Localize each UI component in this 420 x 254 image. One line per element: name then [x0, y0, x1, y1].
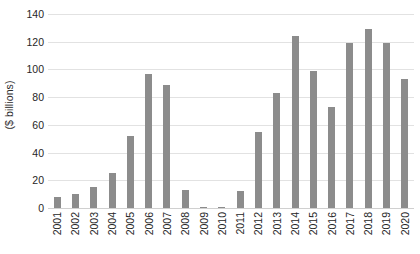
bar: [218, 207, 225, 208]
x-tick-label: 2015: [307, 212, 319, 235]
x-tick-label: 2016: [326, 212, 338, 235]
bar-slot: [85, 14, 103, 208]
bar-slot: [304, 14, 322, 208]
x-slot: 2011: [231, 210, 249, 254]
x-tick-label: 2005: [124, 212, 136, 235]
x-tick-label: 2006: [143, 212, 155, 235]
x-slot: 2009: [194, 210, 212, 254]
x-tick-label: 2009: [198, 212, 210, 235]
x-tick-label: 2019: [380, 212, 392, 235]
bar: [109, 173, 116, 208]
x-tick-label: 2014: [289, 212, 301, 235]
bar-chart: ($ billions) 020406080100120140 20012002…: [0, 0, 420, 254]
bar-slot: [194, 14, 212, 208]
x-tick-label: 2004: [106, 212, 118, 235]
y-axis-title-text: ($ billions): [3, 80, 15, 129]
x-slot: 2008: [176, 210, 194, 254]
bar: [346, 43, 353, 208]
gridline: [48, 208, 414, 209]
x-slot: 2005: [121, 210, 139, 254]
y-axis-title: ($ billions): [0, 0, 18, 210]
x-tick-label: 2013: [271, 212, 283, 235]
x-tick-label: 2020: [399, 212, 411, 235]
y-tick-label: 100: [26, 63, 44, 75]
bar-slot: [268, 14, 286, 208]
x-axis-tick-labels: 2001200220032004200520062007200820092010…: [48, 210, 414, 254]
bar-slot: [249, 14, 267, 208]
bar: [383, 43, 390, 208]
bar-slot: [158, 14, 176, 208]
x-slot: 2013: [268, 210, 286, 254]
bar: [292, 36, 299, 208]
y-tick-label: 120: [26, 36, 44, 48]
x-slot: 2020: [396, 210, 414, 254]
bar: [127, 136, 134, 208]
x-slot: 2012: [249, 210, 267, 254]
x-tick-label: 2011: [234, 212, 246, 235]
bar-slot: [139, 14, 157, 208]
x-slot: 2002: [66, 210, 84, 254]
y-tick-label: 0: [38, 202, 44, 214]
x-slot: 2004: [103, 210, 121, 254]
bar-slot: [66, 14, 84, 208]
x-tick-label: 2012: [252, 212, 264, 235]
bar: [90, 187, 97, 208]
bar: [163, 85, 170, 208]
plot-area: [48, 14, 414, 208]
bar: [365, 29, 372, 208]
bar-slot: [322, 14, 340, 208]
x-tick-label: 2018: [362, 212, 374, 235]
bar-slot: [121, 14, 139, 208]
x-slot: 2007: [158, 210, 176, 254]
bar: [273, 93, 280, 208]
x-tick-label: 2001: [51, 212, 63, 235]
y-tick-label: 20: [32, 174, 44, 186]
x-slot: 2016: [322, 210, 340, 254]
bar: [72, 194, 79, 208]
x-tick-label: 2008: [179, 212, 191, 235]
y-tick-label: 40: [32, 147, 44, 159]
x-slot: 2018: [359, 210, 377, 254]
bar-series: [48, 14, 414, 208]
bar-slot: [176, 14, 194, 208]
x-tick-label: 2017: [344, 212, 356, 235]
x-slot: 2006: [139, 210, 157, 254]
x-slot: 2017: [341, 210, 359, 254]
x-slot: 2014: [286, 210, 304, 254]
y-tick-label: 140: [26, 8, 44, 20]
bar: [328, 107, 335, 208]
x-slot: 2010: [213, 210, 231, 254]
bar: [310, 71, 317, 208]
x-tick-label: 2002: [69, 212, 81, 235]
x-tick-label: 2007: [161, 212, 173, 235]
bar: [200, 207, 207, 208]
y-axis-tick-labels: 020406080100120140: [18, 0, 46, 214]
x-tick-label: 2003: [88, 212, 100, 235]
x-slot: 2003: [85, 210, 103, 254]
bar-slot: [213, 14, 231, 208]
bar: [401, 79, 408, 208]
bar: [54, 197, 61, 208]
bar-slot: [48, 14, 66, 208]
y-tick-label: 60: [32, 119, 44, 131]
x-tick-label: 2010: [216, 212, 228, 235]
bar-slot: [396, 14, 414, 208]
bar: [182, 190, 189, 208]
bar: [255, 132, 262, 208]
bar-slot: [103, 14, 121, 208]
bar-slot: [341, 14, 359, 208]
bar: [145, 74, 152, 208]
x-slot: 2001: [48, 210, 66, 254]
y-tick-label: 80: [32, 91, 44, 103]
bar-slot: [231, 14, 249, 208]
bar-slot: [359, 14, 377, 208]
bar-slot: [377, 14, 395, 208]
x-slot: 2019: [377, 210, 395, 254]
bar-slot: [286, 14, 304, 208]
bar: [237, 191, 244, 208]
x-slot: 2015: [304, 210, 322, 254]
